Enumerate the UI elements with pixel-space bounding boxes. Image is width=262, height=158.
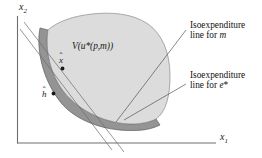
- x-axis-label: x1: [220, 131, 228, 146]
- callout-isoexpenditure-e-star-line2: line for e*: [190, 80, 245, 90]
- callout-isoexpenditure-e-star-line1: Isoexpenditure: [190, 70, 245, 80]
- upper-contour-set-label-base: V(u: [72, 41, 85, 51]
- y-axis-label: x2: [19, 1, 27, 16]
- callout-isoexpenditure-m: Isoexpenditure line for m: [190, 20, 245, 41]
- point-dot-h-hat: [52, 92, 56, 96]
- callout-isoexpenditure-m-line1: Isoexpenditure: [190, 20, 245, 30]
- figure-canvas: x2 x1 V(u*(p,m)) ˆx ˆh Isoexpenditure li…: [0, 0, 262, 158]
- h-hat-accent: ˆ: [43, 86, 46, 96]
- x-hat-accent: ˆ: [60, 52, 63, 62]
- callout-isoexpenditure-m-line2: line for m: [190, 30, 245, 40]
- y-axis-label-sub: 2: [23, 7, 27, 15]
- upper-contour-set-label-args: (p,m)): [90, 41, 113, 51]
- h-hat-glyph: ˆh: [42, 89, 47, 99]
- point-label-h-hat: ˆh: [42, 89, 47, 99]
- point-dot-x-hat: [61, 67, 65, 71]
- point-label-x-hat: ˆx: [59, 55, 63, 65]
- callout-isoexpenditure-e-star: Isoexpenditure line for e*: [190, 70, 245, 91]
- callout-isoexpenditure-m-line2-prefix: line for: [190, 30, 219, 40]
- x-axis-label-sub: 1: [224, 137, 228, 145]
- callout-isoexpenditure-e-star-sup: *: [224, 80, 229, 90]
- upper-contour-set-label: V(u*(p,m)): [72, 41, 113, 52]
- callout-isoexpenditure-m-symbol: m: [219, 30, 226, 40]
- x-hat-glyph: ˆx: [59, 55, 63, 65]
- callout-isoexpenditure-e-star-line2-prefix: line for: [190, 80, 219, 90]
